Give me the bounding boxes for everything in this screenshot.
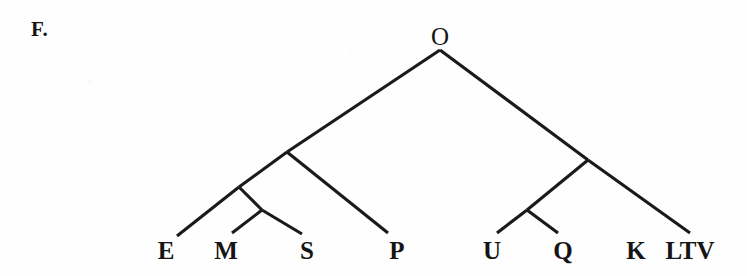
branch-right-to-uq (527, 160, 588, 210)
taxon-label-K: K (626, 237, 646, 264)
taxon-label-S: S (300, 237, 314, 264)
branch-left-to-ems (239, 152, 287, 187)
branch-layer (177, 50, 690, 236)
branch-ems-to-E (177, 187, 239, 236)
branch-uq-to-Q (527, 210, 558, 233)
branch-ms-to-S (262, 210, 302, 234)
taxon-label-U: U (483, 237, 501, 264)
branch-uq-to-U (497, 210, 527, 233)
taxon-label-E: E (158, 237, 175, 264)
branch-left-to-P (287, 152, 388, 233)
branch-root-to-right (440, 50, 588, 160)
taxon-label-LTV: LTV (665, 237, 714, 264)
branch-ems-to-ms (239, 187, 262, 210)
figure-container: F. OEMSPUQKLTV (0, 0, 747, 276)
taxon-label-M: M (214, 237, 238, 264)
taxon-label-P: P (389, 237, 404, 264)
root-label-O: O (431, 23, 449, 50)
cladogram-diagram: OEMSPUQKLTV (0, 0, 747, 276)
branch-root-to-left (287, 50, 440, 152)
branch-ms-to-M (232, 210, 262, 233)
taxon-label-Q: Q (553, 237, 572, 264)
branch-right-to-LTV (588, 160, 690, 233)
